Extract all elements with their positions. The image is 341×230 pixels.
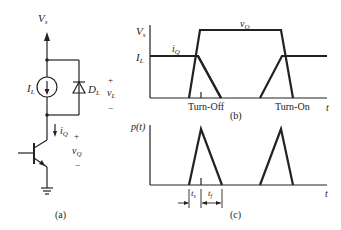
b-il-label: IL [135,51,144,65]
c-p-label: p(t) [130,121,146,133]
caption-c: (c) [230,209,241,221]
chart-b-axes [150,25,327,98]
b-turnon-label: Turn-On [275,101,310,112]
chart-c-axes [150,125,327,185]
chart-b [150,25,327,98]
vq-label: vQ [72,145,82,158]
figure: Vs IL DL + vL − iQ + vQ − (a) Vs IL vQ i… [0,0,341,230]
vq-plus: + [74,131,79,141]
vl-label: vL [107,87,115,100]
ground-icon [41,188,53,194]
source-label: IL [26,82,35,96]
chart-c [150,125,327,208]
vl-minus: − [108,103,113,113]
vq-minus: − [75,160,80,170]
iq-waveform-fall [150,56,221,98]
vl-plus: + [108,75,113,85]
power-pulse-turnoff [189,129,222,185]
b-iq-label: iQ [172,43,180,56]
power-pulse-turnon [260,129,293,185]
diode-label: DL [87,83,100,97]
c-t-label: t [325,188,328,199]
iq-arrow-icon [53,131,57,137]
supply-label: Vs [38,12,48,26]
iq-label: iQ [60,125,68,138]
tf-arrow-right-icon [216,201,221,205]
tf-arrow-left-icon [202,201,207,205]
iq-waveform-rise [260,56,327,98]
caption-a: (a) [55,209,66,221]
timing-dimension-marks [178,189,222,208]
b-t-label: t [326,102,329,113]
caption-b: (b) [230,110,242,122]
transistor-icon [18,140,47,167]
c-ts-label: ts [191,188,197,199]
supply-arrow-icon [44,32,50,41]
c-tf-label: tf [208,188,214,199]
b-vs-label: Vs [136,25,146,39]
b-turnoff-label: Turn-Off [188,101,225,112]
ts-arrow-icon [184,201,189,205]
